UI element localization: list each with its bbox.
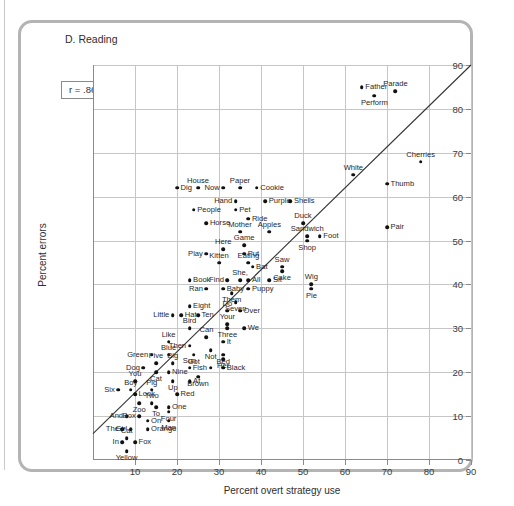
data-point (221, 366, 225, 370)
data-point-label: Dig (181, 184, 192, 192)
data-point (150, 401, 154, 405)
data-point (205, 252, 209, 256)
data-point (192, 208, 196, 212)
x-tick-label: 40 (256, 466, 267, 477)
data-point (175, 392, 179, 396)
data-point (137, 414, 141, 418)
data-point (133, 392, 137, 396)
data-point (247, 287, 251, 291)
data-point-label: On (151, 417, 161, 425)
panel-title: D. Reading (65, 33, 118, 45)
data-point-label: Yellow (116, 454, 138, 462)
data-point-label: Box (123, 412, 136, 420)
data-point (171, 362, 175, 366)
data-point-label: She, (232, 269, 248, 277)
x-tick (261, 460, 262, 465)
data-point-label: Apples (258, 221, 281, 229)
data-point-label: Book (193, 276, 210, 284)
data-point (268, 278, 272, 282)
data-point (385, 182, 389, 186)
data-point (352, 173, 356, 177)
data-point (205, 221, 209, 225)
data-point (167, 370, 171, 374)
data-point-label: It (227, 338, 231, 346)
x-tick (471, 460, 472, 465)
data-point-label: Can (199, 326, 213, 334)
data-point (247, 278, 251, 282)
data-point (188, 344, 192, 348)
data-point-label: Duck (294, 212, 311, 220)
x-tick-label: 50 (298, 466, 309, 477)
data-point-label: Cookie (260, 184, 284, 192)
plot-area: 0102030405060708090 102030405060708090 F… (93, 65, 471, 460)
data-point-label: Over (244, 307, 260, 315)
data-point (175, 186, 179, 190)
data-point-label: Black (227, 364, 246, 372)
data-point (129, 388, 133, 392)
data-point (238, 186, 242, 190)
data-point-label: And (110, 412, 124, 420)
data-point-label: Puppy (252, 285, 274, 293)
data-point (188, 366, 192, 370)
data-point-label: Ten (202, 311, 214, 319)
data-point-label: Two (145, 392, 159, 400)
data-point (209, 366, 213, 370)
data-point-label: Pig (146, 379, 157, 387)
data-point-label: Eating (238, 252, 260, 260)
data-point (116, 388, 120, 392)
data-point (251, 265, 255, 269)
data-point-label: White (344, 164, 363, 172)
data-point (305, 234, 309, 238)
data-point (217, 261, 221, 265)
data-point (205, 335, 209, 339)
data-point (360, 85, 364, 89)
data-point-label: You (129, 370, 142, 378)
data-point-label: Orange (151, 425, 176, 433)
data-point-label: Blue (161, 344, 176, 352)
data-point-label: Pair (391, 224, 405, 232)
data-point (268, 230, 272, 234)
data-point-label: Up (168, 384, 178, 392)
data-point-label: All (252, 276, 260, 284)
data-point-label: Sit (273, 276, 282, 284)
x-tick (429, 460, 430, 465)
data-point-label: Nine (172, 368, 188, 376)
x-tick-label: 80 (424, 466, 435, 477)
data-point-label: Bat (256, 263, 267, 271)
data-point (263, 199, 267, 203)
data-point-label: People (197, 206, 221, 214)
data-point-label: Perform (361, 99, 388, 107)
data-point (196, 313, 200, 317)
data-point (167, 406, 171, 410)
data-point (188, 379, 192, 383)
data-point (133, 441, 137, 445)
data-point (188, 327, 192, 331)
data-point (385, 226, 389, 230)
x-tick-label: 90 (466, 466, 477, 477)
x-tick-label: 60 (340, 466, 351, 477)
data-point-label: Fish (193, 364, 207, 372)
data-point (242, 327, 246, 331)
data-point-label: Horse (210, 219, 230, 227)
data-point-label: Shop (298, 244, 316, 252)
data-point-label: Big (167, 353, 178, 361)
data-point (255, 186, 259, 190)
data-point-label: Sandwich (291, 225, 324, 233)
data-point (226, 278, 230, 282)
x-tick (219, 460, 220, 465)
data-point (318, 234, 322, 238)
x-tick-label: 30 (214, 466, 225, 477)
data-point-label: Now (204, 184, 219, 192)
data-point (234, 208, 238, 212)
data-point-label: We (248, 325, 259, 333)
data-point-label: Kitten (209, 252, 228, 260)
data-point-label: Fox (139, 439, 152, 447)
data-point-label: Find (209, 276, 224, 284)
data-point-label: Ran (189, 285, 203, 293)
x-tick (345, 460, 346, 465)
data-point (171, 313, 175, 317)
data-point (238, 309, 242, 313)
data-point-label: Game (234, 234, 255, 242)
x-axis-title: Percent overt strategy use (93, 485, 471, 496)
gridline-vertical (471, 65, 472, 460)
